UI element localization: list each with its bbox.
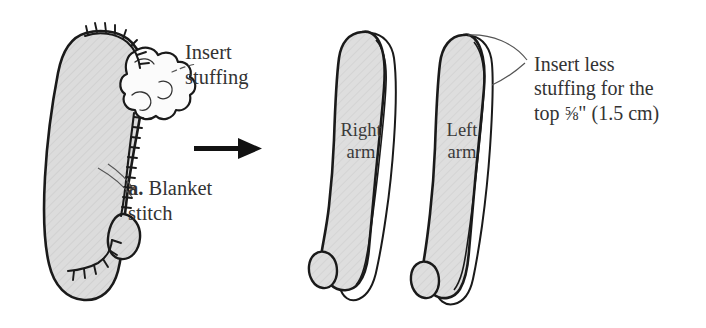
label-blanket-line2: stitch <box>128 201 288 226</box>
label-insert-less-post: " (1.5 cm) <box>578 102 659 124</box>
label-insert-stuffing-line1: Insert <box>185 40 248 65</box>
label-fraction-five-eighths: ⅝ <box>565 104 579 124</box>
label-blanket-marker: a. <box>128 177 143 199</box>
left-arm-body-shape <box>423 34 484 298</box>
label-right-arm-line2: arm <box>330 142 392 164</box>
line-art-illustration <box>0 0 706 328</box>
leader-insert-less-2 <box>492 63 525 85</box>
label-left-arm: Left arm <box>434 120 490 164</box>
label-right-arm: Right arm <box>330 120 392 164</box>
label-blanket-line1: a. Blanket <box>128 176 288 201</box>
label-blanket-word: Blanket <box>149 177 213 199</box>
label-insert-stuffing-line2: stuffing <box>185 65 248 90</box>
label-insert-less-line1: Insert less <box>534 52 702 76</box>
figure-arm-with-blanket-stitch <box>44 23 196 300</box>
label-insert-less-stuffing: Insert less stuffing for the top ⅝" (1.5… <box>534 52 702 125</box>
label-left-arm-line2: arm <box>434 142 490 164</box>
figure-right-arm <box>309 32 396 301</box>
left-arm-thumb-shape <box>411 262 439 298</box>
label-insert-stuffing: Insert stuffing <box>185 40 248 90</box>
stuffing-cloud <box>120 48 195 119</box>
right-arm-thumb-shape <box>309 252 337 288</box>
process-arrow <box>194 138 262 159</box>
label-left-arm-line1: Left <box>434 120 490 142</box>
label-right-arm-line1: Right <box>330 120 392 142</box>
figure-left-arm <box>411 34 527 304</box>
label-insert-less-line2: stuffing for the <box>534 76 702 100</box>
label-insert-less-pre: top <box>534 102 565 124</box>
label-insert-less-line3: top ⅝" (1.5 cm) <box>534 101 702 125</box>
label-blanket-stitch: a. Blanket stitch <box>128 176 288 226</box>
illustration-canvas: Insert stuffing a. Blanket stitch Right … <box>0 0 706 328</box>
